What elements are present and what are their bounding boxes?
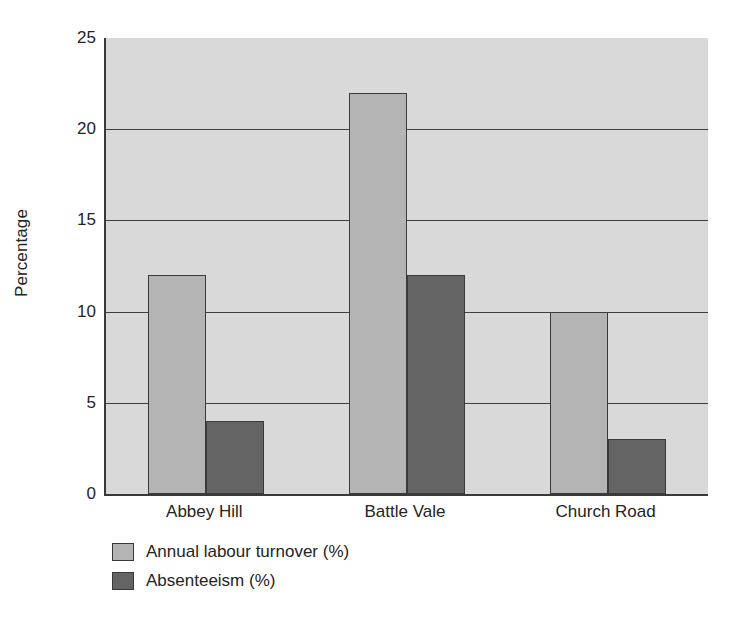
- bar: [608, 439, 666, 494]
- plot-area: [104, 38, 708, 496]
- bar: [148, 275, 206, 494]
- bar: [206, 421, 264, 494]
- gridline: [106, 220, 708, 221]
- x-axis-tick-label: Church Road: [506, 502, 706, 522]
- bar: [349, 93, 407, 494]
- x-axis-tick-labels: Abbey HillBattle ValeChurch Road: [104, 502, 706, 528]
- y-axis-title: Percentage: [12, 173, 32, 333]
- y-axis-tick-label: 5: [42, 394, 96, 411]
- y-axis-tick-label: 20: [42, 120, 96, 137]
- x-axis-tick-label: Battle Vale: [305, 502, 505, 522]
- legend-label: Absenteeism (%): [146, 571, 275, 590]
- bar: [550, 312, 608, 494]
- y-axis-tick-label: 15: [42, 211, 96, 228]
- y-axis-tick-labels: 0510152025: [42, 38, 96, 494]
- legend-item: Annual labour turnover (%): [112, 537, 512, 566]
- bar-chart: Percentage 0510152025 Abbey HillBattle V…: [0, 0, 737, 636]
- y-axis-tick-label: 25: [42, 29, 96, 46]
- bar: [407, 275, 465, 494]
- x-axis-tick-label: Abbey Hill: [104, 502, 304, 522]
- legend-label: Annual labour turnover (%): [146, 542, 349, 561]
- y-axis-tick-label: 0: [42, 485, 96, 502]
- legend-swatch: [112, 543, 134, 561]
- legend-item: Absenteeism (%): [112, 566, 512, 595]
- legend: Annual labour turnover (%)Absenteeism (%…: [112, 537, 512, 595]
- gridline: [106, 129, 708, 130]
- y-axis-tick-label: 10: [42, 303, 96, 320]
- legend-swatch: [112, 572, 134, 590]
